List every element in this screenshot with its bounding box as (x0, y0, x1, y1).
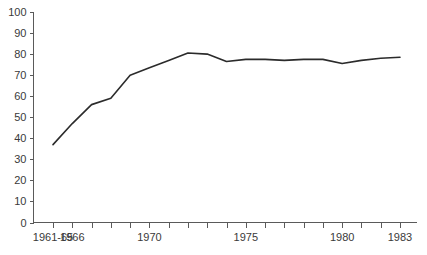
y-tick-label: 0 (20, 217, 26, 229)
y-axis-ticks: 0102030405060708090100 (8, 6, 33, 229)
y-tick-label: 20 (14, 174, 26, 186)
y-tick-label: 30 (14, 153, 26, 165)
y-tick-label: 40 (14, 132, 26, 144)
x-tick-label: 1983 (388, 231, 412, 243)
y-tick-label: 50 (14, 111, 26, 123)
y-tick-label: 100 (8, 6, 26, 18)
line-chart: 0102030405060708090100 1961-651966197019… (0, 0, 427, 255)
x-tick-label: 1975 (234, 231, 258, 243)
x-tick-label: 1980 (330, 231, 354, 243)
x-tick-label: 1970 (137, 231, 161, 243)
y-tick-label: 60 (14, 90, 26, 102)
y-tick-label: 80 (14, 48, 26, 60)
y-tick-label: 10 (14, 195, 26, 207)
chart-canvas: 0102030405060708090100 1961-651966197019… (0, 0, 427, 255)
x-axis-ticks: 1961-6519661970197519801983 (33, 223, 412, 243)
data-series-line (53, 53, 400, 145)
x-tick-label: 1966 (60, 231, 84, 243)
y-tick-label: 90 (14, 27, 26, 39)
y-tick-label: 70 (14, 69, 26, 81)
